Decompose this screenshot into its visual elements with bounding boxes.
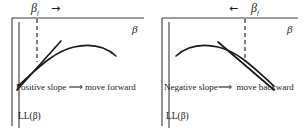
direction-arrow-left-icon: ← (229, 3, 238, 14)
caption-negative-slope: Negative slope⟹ move backward (164, 82, 294, 92)
log-likelihood-curve (18, 45, 116, 86)
marker-label-beta-f: βf (251, 2, 259, 17)
panel-negative-slope: ← βf β Negative slope⟹ move backward LL(… (156, 0, 302, 130)
implies-arrow-icon: ⟹ (218, 81, 232, 92)
vertical-axis-label: LL(β) (18, 112, 41, 122)
log-likelihood-curve (176, 45, 274, 86)
caption-positive-slope: Positive slope ⟹ move forward (16, 82, 136, 92)
vertical-axis-label: LL(β) (166, 112, 189, 122)
two-panel-diagram: βf → β Positive slope ⟹ move forward LL(… (0, 0, 304, 130)
horizontal-axis-label: β (132, 24, 137, 35)
horizontal-axis-label: β (287, 24, 292, 35)
direction-arrow-right-icon: → (51, 3, 60, 14)
marker-label-beta-f: βf (31, 2, 39, 17)
implies-arrow-icon: ⟹ (69, 81, 83, 92)
panel-positive-slope: βf → β Positive slope ⟹ move forward LL(… (4, 0, 150, 130)
